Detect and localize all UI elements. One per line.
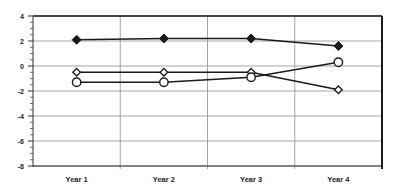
x-axis-labels: Year 1Year 2Year 3Year 4 [66,175,351,184]
y-tick-label: -6 [18,138,24,145]
filled-diamond-marker [247,34,256,43]
line-chart: 420-2-4-6-8 Year 1Year 2Year 3Year 4 [0,0,395,192]
y-tick-label: -8 [18,163,24,170]
y-tick-label: 4 [20,13,24,20]
open-diamond-marker [160,68,168,76]
filled-diamond-marker [72,35,81,44]
open-diamond-marker [335,86,343,94]
y-tick-label: 0 [20,63,24,70]
open-circle-marker [72,78,80,86]
filled-diamond-marker [334,42,343,51]
x-category-label: Year 3 [240,175,262,184]
x-category-label: Year 4 [327,175,350,184]
x-category-label: Year 2 [153,175,175,184]
open-circle-marker [247,73,255,81]
open-diamond-marker [73,68,81,76]
y-tick-label: -2 [18,88,24,95]
open-circle-marker [334,58,342,66]
y-axis-ticks: 420-2-4-6-8 [18,13,33,170]
y-tick-label: -4 [18,113,24,120]
open-circle-marker [160,78,168,86]
y-tick-label: 2 [20,38,24,45]
x-category-label: Year 1 [66,175,88,184]
filled-diamond-marker [159,34,168,43]
